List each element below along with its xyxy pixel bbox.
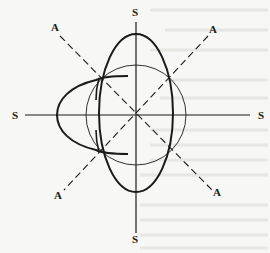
label-axis-bottom: S [132,233,138,245]
label-axis-left: S [12,109,18,121]
label-axis-top: S [132,6,138,18]
label-axis-right: S [258,109,264,121]
label-diag-bottom-right: A [213,186,221,198]
inner-arc-upper [96,78,99,100]
label-diag-bottom-left: A [54,189,62,201]
inner-arc-lower [96,130,99,152]
diagram-canvas: S S S S A A A A [0,0,270,253]
label-diag-top-left: A [51,21,59,33]
polar-diagram: S S S S A A A A [0,0,270,253]
label-diag-top-right: A [209,23,217,35]
